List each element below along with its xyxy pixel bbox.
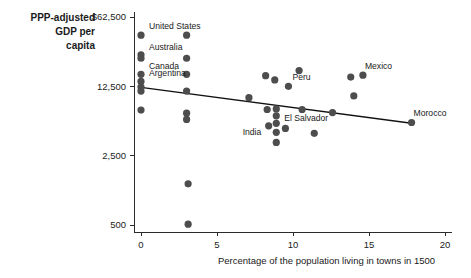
y-axis-title-line: PPP-adjusted bbox=[31, 12, 95, 23]
scatter-chart: $62,50012,5002,500500 05101520 United St… bbox=[0, 0, 471, 278]
data-point-label: Mexico bbox=[365, 61, 392, 71]
y-tick-label: 12,500 bbox=[97, 81, 126, 92]
x-tick-label: 0 bbox=[138, 239, 143, 250]
data-point bbox=[137, 87, 144, 94]
data-point-label: Australia bbox=[149, 42, 183, 52]
data-point bbox=[183, 55, 190, 62]
x-tick-label: 5 bbox=[214, 239, 219, 250]
data-point bbox=[359, 72, 366, 79]
data-point bbox=[347, 73, 354, 80]
chart-svg: $62,50012,5002,500500 05101520 United St… bbox=[0, 0, 471, 278]
data-point bbox=[350, 92, 357, 99]
data-point-labels: United StatesAustraliaCanadaArgentinaInd… bbox=[149, 21, 447, 137]
data-point bbox=[265, 122, 272, 129]
data-point bbox=[311, 130, 318, 137]
data-point bbox=[185, 221, 192, 228]
data-point bbox=[137, 106, 144, 113]
x-axis-title-text: Percentage of the population living in t… bbox=[218, 255, 435, 266]
data-point bbox=[273, 120, 280, 127]
x-axis-tick-labels: 05101520 bbox=[138, 239, 450, 250]
data-point bbox=[408, 119, 415, 126]
data-point bbox=[262, 72, 269, 79]
y-tick-label: 2,500 bbox=[102, 150, 126, 161]
data-point bbox=[329, 109, 336, 116]
data-point bbox=[137, 55, 144, 62]
data-point bbox=[273, 105, 280, 112]
data-point-label: United States bbox=[149, 21, 201, 31]
data-point bbox=[282, 125, 289, 132]
data-point bbox=[183, 110, 190, 117]
y-axis-title-line: capita bbox=[66, 40, 95, 51]
y-tick-label: $62,500 bbox=[92, 11, 126, 22]
data-point bbox=[183, 32, 190, 39]
x-tick-label: 15 bbox=[364, 239, 375, 250]
data-point bbox=[264, 106, 271, 113]
data-point-label: El Salvador bbox=[284, 113, 328, 123]
data-point bbox=[273, 112, 280, 119]
data-point-label: India bbox=[243, 127, 262, 137]
data-point-label: Argentina bbox=[149, 68, 186, 78]
y-axis-title: PPP-adjustedGDP percapita bbox=[31, 12, 96, 51]
x-tick-label: 20 bbox=[440, 239, 451, 250]
data-point bbox=[273, 139, 280, 146]
x-axis-title: Percentage of the population living in t… bbox=[218, 255, 435, 266]
y-axis-title-line: GDP per bbox=[55, 26, 95, 37]
data-point-label: Peru bbox=[292, 72, 310, 82]
x-tick-label: 10 bbox=[288, 239, 299, 250]
y-axis-tick-labels: $62,50012,5002,500500 bbox=[92, 11, 126, 230]
data-point bbox=[273, 129, 280, 136]
data-point bbox=[245, 94, 252, 101]
data-point bbox=[137, 32, 144, 39]
data-point bbox=[183, 116, 190, 123]
data-point-label: Morocco bbox=[414, 108, 447, 118]
data-point bbox=[271, 76, 278, 83]
data-point bbox=[185, 180, 192, 187]
data-point bbox=[137, 71, 144, 78]
data-point bbox=[183, 87, 190, 94]
y-tick-label: 500 bbox=[110, 219, 126, 230]
data-point bbox=[285, 83, 292, 90]
